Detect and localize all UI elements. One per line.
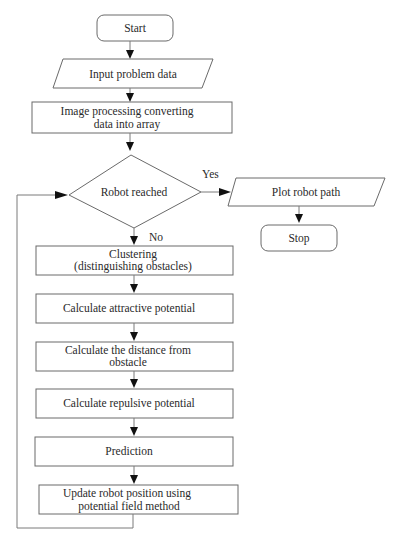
input-label: Input problem data <box>89 68 177 81</box>
connector-repulsive-prediction <box>130 418 138 436</box>
arrowhead-icon <box>295 214 303 223</box>
stop-label: Stop <box>288 232 309 245</box>
arrowhead-icon <box>55 191 68 199</box>
connector-yes: Yes <box>201 168 231 196</box>
decision-node: Robot reached <box>69 155 201 228</box>
no-label: No <box>149 231 163 243</box>
repulsive-node: Calculate repulsive potential <box>36 389 233 418</box>
connector-no: No <box>130 228 163 245</box>
start-node: Start <box>97 15 173 41</box>
arrowhead-icon <box>130 475 138 484</box>
stop-node: Stop <box>261 225 337 251</box>
arrowhead-icon <box>219 188 231 196</box>
clustering-line2: (distinguishing obstacles) <box>74 260 192 273</box>
image-processing-line1: Image processing converting <box>61 105 194 118</box>
flowchart-canvas: Start Input problem data Image processin… <box>0 0 398 542</box>
image-processing-node: Image processing converting data into ar… <box>32 102 232 133</box>
clustering-node: Clustering (distinguishing obstacles) <box>36 246 233 275</box>
distance-node: Calculate the distance from obstacle <box>36 342 233 371</box>
arrowhead-icon <box>130 427 138 436</box>
arrowhead-icon <box>130 379 138 388</box>
update-node: Update robot position using potential fi… <box>39 485 238 514</box>
decision-label: Robot reached <box>101 186 168 198</box>
distance-line1: Calculate the distance from <box>65 344 191 356</box>
yes-label: Yes <box>202 168 219 180</box>
arrowhead-icon <box>130 332 138 341</box>
distance-line2: obstacle <box>109 356 147 368</box>
connector-plot-stop <box>295 206 303 223</box>
arrowhead-icon <box>126 50 134 59</box>
connector-image-decision <box>126 133 134 151</box>
update-line1: Update robot position using <box>63 487 191 500</box>
arrowhead-icon <box>130 236 138 245</box>
image-processing-line2: data into array <box>94 118 161 131</box>
connector-prediction-update <box>130 466 138 484</box>
attractive-node: Calculate attractive potential <box>36 294 233 323</box>
arrowhead-icon <box>126 93 134 102</box>
connector-clustering-attractive <box>130 275 138 293</box>
start-label: Start <box>124 22 147 34</box>
plot-node: Plot robot path <box>228 178 385 206</box>
connector-attractive-distance <box>130 323 138 341</box>
attractive-label: Calculate attractive potential <box>63 302 195 315</box>
connector-distance-repulsive <box>130 371 138 388</box>
prediction-node: Prediction <box>35 437 233 466</box>
plot-label: Plot robot path <box>272 186 341 199</box>
connector-start-input <box>126 41 134 59</box>
connector-input-image <box>126 88 134 102</box>
prediction-label: Prediction <box>105 445 153 457</box>
repulsive-label: Calculate repulsive potential <box>63 397 195 410</box>
arrowhead-icon <box>126 142 134 151</box>
input-node: Input problem data <box>53 59 213 88</box>
update-line2: potential field method <box>78 500 180 513</box>
arrowhead-icon <box>130 284 138 293</box>
